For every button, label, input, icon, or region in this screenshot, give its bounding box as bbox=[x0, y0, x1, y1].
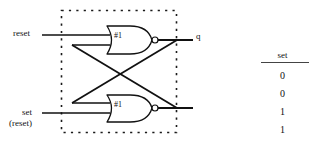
nor-gate-bottom-label: #1 bbox=[114, 100, 122, 110]
nor-gate-top-label: #1 bbox=[114, 31, 122, 41]
truth-table-cell: 1 bbox=[255, 99, 310, 117]
truth-table-header-set: set bbox=[255, 50, 310, 62]
nor-gate-top-bubble-icon bbox=[152, 37, 158, 43]
set-input-label: set bbox=[22, 107, 32, 117]
reset-input-label: reset bbox=[13, 28, 30, 38]
truth-table-cell: 0 bbox=[255, 81, 310, 99]
nor-gate-bottom-bubble-icon bbox=[152, 105, 158, 111]
truth-table-cell: 1 bbox=[255, 117, 310, 135]
set-input-sublabel: (reset) bbox=[9, 118, 32, 128]
figure-root: reset set (reset) q #1 #1 set 0 0 1 1 bbox=[0, 0, 310, 143]
truth-table-cell: 0 bbox=[255, 63, 310, 81]
q-output-label: q bbox=[196, 31, 201, 41]
truth-table: set 0 0 1 1 bbox=[255, 50, 310, 135]
